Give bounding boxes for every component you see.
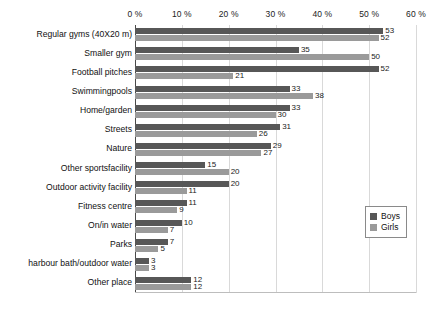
- bar-value-label: 50: [371, 53, 380, 61]
- bar-value-label: 30: [278, 111, 287, 119]
- x-tick-label: 30 %: [266, 9, 286, 19]
- legend-swatch-icon: [370, 213, 377, 220]
- bar-value-label: 29: [273, 142, 282, 150]
- bar-girls: [135, 112, 276, 118]
- category-label: Smaller gym: [84, 49, 132, 58]
- gridline: [182, 25, 183, 293]
- bar-value-label: 33: [292, 85, 301, 93]
- bar-boys: [135, 47, 299, 53]
- bar-girls: [135, 93, 313, 99]
- category-label: Home/garden: [80, 106, 132, 115]
- bar-value-label: 52: [381, 34, 390, 42]
- category-label: Fitness centre: [78, 202, 132, 211]
- bar-value-label: 38: [315, 92, 324, 100]
- category-label: Outdoor activity facility: [46, 183, 132, 192]
- bar-value-label: 11: [189, 199, 197, 207]
- bar-value-label: 7: [170, 226, 174, 234]
- category-label: Nature: [106, 144, 132, 153]
- bar-value-label: 15: [207, 161, 216, 169]
- bar-boys: [135, 86, 290, 92]
- category-label: Swimmingpools: [72, 87, 132, 96]
- bar-value-label: 31: [282, 123, 291, 131]
- bar-boys: [135, 258, 149, 264]
- x-tick-label: 40 %: [312, 9, 332, 19]
- bar-value-label: 9: [179, 206, 183, 214]
- horizontal-bar-chart: 0 %10 %20 %30 %40 %50 %60 % Regular gyms…: [0, 0, 445, 309]
- bar-girls: [135, 207, 177, 213]
- bar-girls: [135, 188, 187, 194]
- bar-value-label: 33: [292, 104, 301, 112]
- category-label: Streets: [105, 125, 132, 134]
- bar-girls: [135, 35, 379, 41]
- bar-girls: [135, 54, 369, 60]
- category-label: harbour bath/outdoor water: [28, 259, 132, 268]
- legend-item-girls[interactable]: Girls: [370, 222, 400, 233]
- bar-girls: [135, 227, 168, 233]
- bar-value-label: 20: [231, 168, 240, 176]
- bar-boys: [135, 277, 191, 283]
- category-label: Other sportsfacility: [61, 164, 132, 173]
- bar-value-label: 12: [193, 283, 202, 291]
- bar-value-label: 11: [189, 187, 197, 195]
- gridline: [369, 25, 370, 293]
- gridline: [276, 25, 277, 293]
- x-tick-label: 50 %: [359, 9, 379, 19]
- x-tick-label: 0 %: [128, 9, 143, 19]
- category-label: On/in water: [88, 221, 132, 230]
- category-label: Regular gyms (40X20 m): [36, 30, 132, 39]
- legend-label: Girls: [381, 222, 398, 233]
- bar-value-label: 27: [263, 149, 272, 157]
- bar-boys: [135, 105, 290, 111]
- y-axis-category-labels: Regular gyms (40X20 m)Smaller gymFootbal…: [0, 25, 132, 293]
- bar-value-label: 20: [231, 180, 240, 188]
- legend-item-boys[interactable]: Boys: [370, 211, 400, 222]
- x-axis-line: [135, 292, 416, 293]
- bar-girls: [135, 246, 158, 252]
- bar-girls: [135, 150, 261, 156]
- bar-boys: [135, 28, 383, 34]
- bar-girls: [135, 265, 149, 271]
- bar-girls: [135, 73, 233, 79]
- bar-value-label: 35: [301, 46, 310, 54]
- x-tick-label: 10 %: [172, 9, 192, 19]
- bar-boys: [135, 220, 182, 226]
- category-label: Football pitches: [72, 68, 132, 77]
- legend-label: Boys: [381, 211, 400, 222]
- gridline: [322, 25, 323, 293]
- legend-swatch-icon: [370, 224, 377, 231]
- y-axis-line: [135, 25, 136, 293]
- bar-value-label: 7: [170, 238, 174, 246]
- bar-boys: [135, 66, 379, 72]
- category-label: Parks: [110, 240, 132, 249]
- gridline: [229, 25, 230, 293]
- bar-girls: [135, 131, 257, 137]
- bar-girls: [135, 169, 229, 175]
- chart-legend: BoysGirls: [365, 206, 407, 238]
- bar-value-label: 52: [381, 65, 390, 73]
- bar-value-label: 10: [184, 219, 193, 227]
- plot-area: 5352355052213338333031262927152020111191…: [135, 25, 416, 293]
- bar-value-label: 21: [235, 72, 244, 80]
- bar-boys: [135, 143, 271, 149]
- x-tick-label: 20 %: [219, 9, 239, 19]
- x-tick-label: 60 %: [406, 9, 426, 19]
- category-label: Other place: [88, 278, 132, 287]
- bar-value-label: 3: [151, 264, 155, 272]
- bar-boys: [135, 162, 205, 168]
- bar-value-label: 26: [259, 130, 268, 138]
- gridline: [416, 25, 417, 293]
- bar-boys: [135, 181, 229, 187]
- bar-value-label: 5: [160, 245, 164, 253]
- bar-girls: [135, 284, 191, 290]
